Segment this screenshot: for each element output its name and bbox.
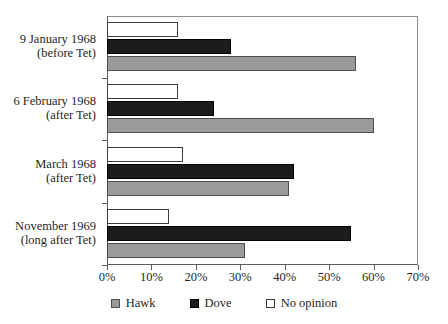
- x-axis-tick-label-4: 40%: [273, 270, 296, 285]
- bar-hawk-2[interactable]: [107, 181, 289, 196]
- bar-dove-3[interactable]: [107, 226, 351, 241]
- legend-item-dove[interactable]: Dove: [190, 296, 232, 310]
- bar-track-dove-1: [107, 101, 418, 116]
- bar-no-opinion-3[interactable]: [107, 209, 169, 224]
- chart-legend: Hawk Dove No opinion: [0, 296, 448, 310]
- legend-swatch-no-opinion-icon: [266, 299, 275, 308]
- bar-group-3: [107, 203, 418, 265]
- x-axis-tick-label-7: 70%: [407, 270, 430, 285]
- bar-group-0: [107, 16, 418, 78]
- x-axis-tick-label-2: 20%: [184, 270, 207, 285]
- x-axis-tick-label-6: 60%: [362, 270, 385, 285]
- x-axis-tick-label-1: 10%: [140, 270, 163, 285]
- bar-track-noop-3: [107, 209, 418, 224]
- bar-track-hawk-2: [107, 181, 418, 196]
- legend-label-no-opinion: No opinion: [281, 296, 338, 310]
- bar-hawk-3[interactable]: [107, 243, 245, 258]
- bar-group-1: [107, 78, 418, 140]
- bar-track-dove-0: [107, 39, 418, 54]
- bar-group-2: [107, 141, 418, 203]
- bar-dove-1[interactable]: [107, 101, 214, 116]
- bar-no-opinion-2[interactable]: [107, 147, 183, 162]
- x-axis-labels: 0%10%20%30%40%50%60%70%: [0, 270, 448, 288]
- bar-track-noop-0: [107, 22, 418, 37]
- bar-track-dove-2: [107, 164, 418, 179]
- legend-item-hawk[interactable]: Hawk: [111, 296, 156, 310]
- x-axis-tick-label-5: 50%: [318, 270, 341, 285]
- bar-hawk-0[interactable]: [107, 56, 356, 71]
- bar-track-hawk-0: [107, 56, 418, 71]
- y-axis-label-0-line1: 9 January 1968: [20, 32, 96, 46]
- y-axis-label-1-line1: 6 February 1968: [13, 94, 96, 108]
- y-axis-label-0: 9 January 1968 (before Tet): [20, 32, 96, 60]
- x-axis-tick-label-3: 30%: [229, 270, 252, 285]
- bar-hawk-1[interactable]: [107, 118, 374, 133]
- y-axis-label-2-line2: (after Tet): [46, 171, 96, 185]
- bar-track-dove-3: [107, 226, 418, 241]
- bar-track-noop-2: [107, 147, 418, 162]
- bar-chart: 9 January 1968 (before Tet) 6 February 1…: [0, 0, 448, 324]
- legend-swatch-dove-icon: [190, 299, 199, 308]
- legend-label-hawk: Hawk: [126, 296, 156, 310]
- bar-groups: [107, 16, 418, 265]
- y-axis-label-2-line1: March 1968: [35, 157, 96, 171]
- legend-item-no-opinion[interactable]: No opinion: [266, 296, 338, 310]
- bar-track-hawk-3: [107, 243, 418, 258]
- y-axis-label-3: November 1969 (long after Tet): [15, 219, 96, 247]
- bar-dove-0[interactable]: [107, 39, 231, 54]
- bar-no-opinion-0[interactable]: [107, 22, 178, 37]
- bar-dove-2[interactable]: [107, 164, 294, 179]
- bar-track-hawk-1: [107, 118, 418, 133]
- y-axis-label-0-line2: (before Tet): [37, 46, 96, 60]
- x-axis-tick-label-0: 0%: [99, 270, 116, 285]
- y-axis-label-1: 6 February 1968 (after Tet): [13, 94, 96, 122]
- y-axis-label-3-line2: (long after Tet): [21, 233, 96, 247]
- y-axis-label-2: March 1968 (after Tet): [35, 157, 96, 185]
- bar-track-noop-1: [107, 84, 418, 99]
- y-axis-label-1-line2: (after Tet): [46, 108, 96, 122]
- legend-label-dove: Dove: [205, 296, 232, 310]
- y-axis-labels: 9 January 1968 (before Tet) 6 February 1…: [0, 16, 100, 265]
- legend-swatch-hawk-icon: [111, 299, 120, 308]
- bar-no-opinion-1[interactable]: [107, 84, 178, 99]
- y-axis-label-3-line1: November 1969: [15, 219, 96, 233]
